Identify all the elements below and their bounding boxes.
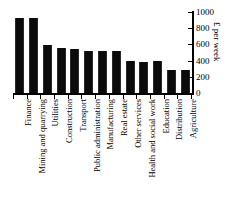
category-label-slot: Education xyxy=(151,99,165,199)
y-axis-tick-label: 800 xyxy=(196,24,210,33)
bar-slot xyxy=(151,12,165,93)
bar xyxy=(167,70,176,93)
category-label-slot: Agriculture xyxy=(178,99,192,199)
bars-container xyxy=(13,12,192,93)
category-label-slot: Transport xyxy=(68,99,82,199)
bar xyxy=(57,48,66,93)
bar xyxy=(126,61,135,93)
y-axis-tick-label: 600 xyxy=(196,40,210,49)
bar xyxy=(15,18,24,93)
bar xyxy=(112,51,121,93)
bar xyxy=(153,61,162,93)
bar-slot xyxy=(54,12,68,93)
bar-slot xyxy=(68,12,82,93)
bar-slot xyxy=(123,12,137,93)
bar xyxy=(70,49,79,93)
y-axis-tick xyxy=(188,12,193,13)
category-label-slot: Distribution xyxy=(164,99,178,199)
y-axis-tick xyxy=(188,77,193,78)
bar xyxy=(29,18,38,93)
bar-slot xyxy=(164,12,178,93)
y-axis-ticks xyxy=(188,12,193,93)
category-label-slot: Public administration xyxy=(82,99,96,199)
y-axis-tick xyxy=(188,61,193,62)
category-label-slot: Health and social work xyxy=(137,99,151,199)
bar xyxy=(43,45,52,93)
category-label-slot: Construction xyxy=(54,99,68,199)
bar xyxy=(98,51,107,93)
category-label-slot: Other services xyxy=(123,99,137,199)
bar-slot xyxy=(82,12,96,93)
y-axis-title: £ per week xyxy=(212,22,221,61)
bar-slot xyxy=(41,12,55,93)
bar-chart-figure: 02004006008001000 £ per week FinanceMini… xyxy=(0,0,243,210)
category-label-slot: Utilities xyxy=(41,99,55,199)
bar-slot xyxy=(137,12,151,93)
category-label: Agriculture xyxy=(189,99,198,138)
plot-area xyxy=(13,12,192,93)
y-axis-tick-label: 1000 xyxy=(196,8,214,17)
y-axis-tick-label: 400 xyxy=(196,56,210,65)
y-axis-tick xyxy=(188,28,193,29)
y-axis-tick xyxy=(188,93,193,94)
x-axis-category-labels: FinanceMining and quarryingUtilitiesCons… xyxy=(13,99,192,199)
bar-slot xyxy=(96,12,110,93)
y-axis-tick-label: 0 xyxy=(196,89,201,98)
category-label-slot: Manufacturing xyxy=(96,99,110,199)
category-label-slot: Finance xyxy=(13,99,27,199)
category-label-slot: Mining and quarrying xyxy=(27,99,41,199)
y-axis-tick xyxy=(188,44,193,45)
bar-slot xyxy=(13,12,27,93)
bar xyxy=(84,51,93,93)
bar xyxy=(139,62,148,93)
category-label-slot: Real estate xyxy=(109,99,123,199)
bar-slot xyxy=(109,12,123,93)
bar-slot xyxy=(27,12,41,93)
y-axis-tick-label: 200 xyxy=(196,72,210,81)
